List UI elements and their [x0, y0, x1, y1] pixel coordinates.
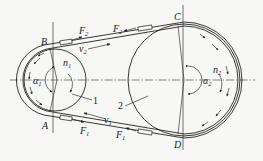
- v2-label: v2: [79, 43, 87, 55]
- point-B-label: B: [41, 36, 47, 47]
- F1-left-arrow: [72, 119, 84, 122]
- v1-label: v1: [104, 114, 112, 126]
- leader-line-2: [125, 96, 148, 106]
- radial-line-A: [50, 80, 57, 111]
- belt-cut-top-right: [138, 25, 152, 31]
- radial-line-B: [50, 49, 57, 80]
- belt-cut-top-left: [60, 39, 72, 45]
- F1-right-label: F1: [115, 129, 125, 141]
- F2-left-label: F2: [78, 25, 89, 37]
- n2-label: n2: [213, 64, 222, 76]
- point-C-label: C: [174, 11, 181, 22]
- part-2-label: 2: [118, 100, 123, 111]
- alpha2-label: α2: [203, 75, 212, 87]
- point-A-label: A: [41, 120, 49, 131]
- v2-arrow: [88, 44, 110, 49]
- alpha1-label: α1: [33, 75, 42, 87]
- belt-cut-bottom-right: [138, 129, 152, 135]
- n1-label: n1: [63, 57, 71, 69]
- n2-rotation-arrow: [219, 74, 222, 92]
- F1-left-label: F1: [79, 125, 89, 137]
- F2-right-label: F2: [112, 23, 123, 35]
- belt-drive-diagram: B A C D F2 v2 F2 F1 v1 F1 n1 n2 α1 α2 1 …: [0, 0, 263, 161]
- n1-rotation-arrow: [68, 74, 73, 92]
- belt-cut-bottom-left: [60, 115, 72, 121]
- point-D-label: D: [173, 139, 182, 150]
- part-1-label: 1: [93, 95, 98, 106]
